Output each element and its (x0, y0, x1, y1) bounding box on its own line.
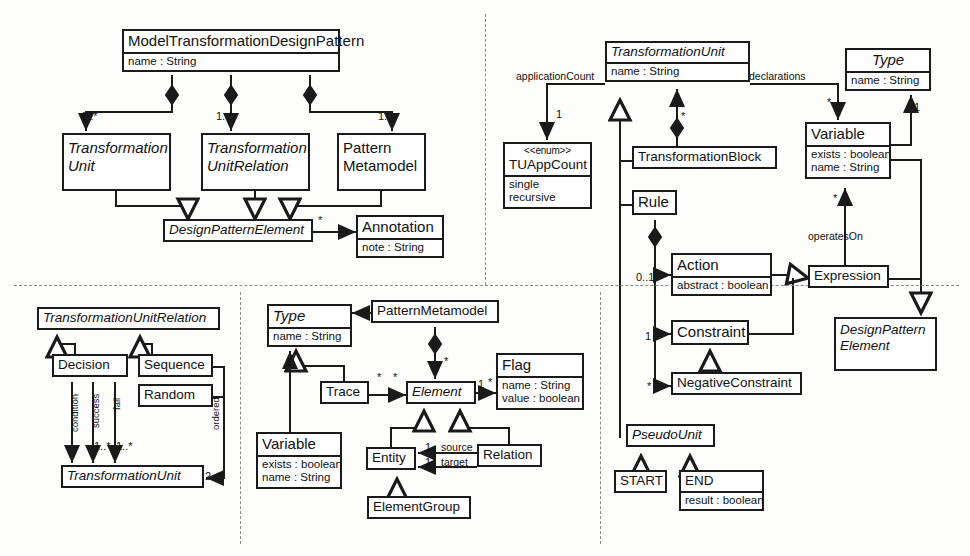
class-name-compartment: Rule (634, 192, 675, 213)
multiplicity-label: 0..1 (636, 271, 654, 283)
multiplicity-label: * (393, 371, 397, 383)
class-name-line-1: DesignPattern (840, 322, 931, 338)
class-name: Element (412, 384, 470, 400)
multiplicity-label: 1..* (216, 110, 233, 122)
class-name: Expression (814, 268, 883, 284)
class-name-line-1: Transformation (207, 139, 304, 157)
class-name: Entity (372, 450, 410, 466)
attribute: name : String (851, 74, 925, 88)
class-design-pattern-element-right[interactable]: DesignPattern Element (834, 317, 937, 371)
divider-vertical-top (485, 14, 486, 285)
class-start[interactable]: START (614, 470, 667, 493)
class-rule[interactable]: Rule (632, 190, 677, 215)
class-name-compartment: Sequence (140, 356, 211, 375)
class-name-compartment: <<enum>> TUAppCount (505, 144, 590, 175)
class-decision[interactable]: Decision (52, 354, 128, 377)
class-entity[interactable]: Entity (366, 447, 416, 470)
multiplicity-label: 1..* (378, 110, 395, 122)
class-name-line-2: Element (840, 338, 931, 354)
class-name: ElementGroup (373, 499, 465, 515)
attribute: name : String (128, 55, 334, 69)
class-tuappcount-enum[interactable]: <<enum>> TUAppCount single recursive (503, 142, 592, 209)
multiplicity-label: 1..* (94, 440, 111, 452)
association-role-label: fail (111, 398, 122, 410)
class-attributes-compartment: name : String (269, 327, 350, 346)
class-literals-compartment: single recursive (505, 175, 590, 207)
association-role-label: applicationCount (516, 70, 594, 82)
class-type-bottom-middle[interactable]: Type name : String (267, 304, 352, 347)
class-name-line-2: Unit (68, 157, 165, 175)
class-variable-bottom-middle[interactable]: Variable exists : boolean name : String (256, 432, 342, 489)
class-random[interactable]: Random (138, 384, 213, 407)
class-relation[interactable]: Relation (477, 444, 542, 467)
class-name: Trace (326, 384, 363, 400)
class-name: TransformationUnit (67, 468, 198, 484)
class-pseudo-unit[interactable]: PseudoUnit (626, 424, 715, 447)
class-name: Type (273, 307, 346, 325)
multiplicity-label: 1..* (81, 110, 98, 122)
class-attributes-compartment: name : String (607, 62, 748, 81)
class-transformation-unit-relation-bottom-left[interactable]: TransformationUnitRelation (37, 307, 220, 330)
multiplicity-label: 2..* (205, 470, 222, 482)
class-expression[interactable]: Expression (808, 265, 889, 288)
class-attributes-compartment: result : boolean (681, 491, 762, 510)
class-attributes-compartment: exists : boolean name : String (258, 455, 340, 487)
class-variable-top-right[interactable]: Variable exists : boolean name : String (805, 122, 891, 179)
class-name: Variable (811, 125, 885, 143)
multiplicity-label: 1 (478, 378, 484, 390)
class-transformation-block[interactable]: TransformationBlock (632, 146, 777, 169)
class-name-compartment: PatternMetamodel (373, 302, 497, 321)
class-name-compartment: END (681, 472, 762, 491)
class-transformation-unit-main[interactable]: TransformationUnit name : String (605, 41, 750, 82)
multiplicity-label: * (681, 110, 685, 122)
class-transformation-unit-top-left[interactable]: Transformation Unit (62, 133, 171, 191)
association-role-label: success (90, 394, 101, 428)
class-element[interactable]: Element (406, 381, 476, 404)
class-name-line-1: Pattern (343, 139, 420, 157)
class-design-pattern-element[interactable]: DesignPatternElement (163, 219, 313, 242)
class-type-top-right[interactable]: Type name : String (845, 48, 931, 91)
attribute: name : String (502, 379, 578, 393)
class-name-line-1: Transformation (68, 139, 165, 157)
class-pattern-metamodel-bottom-middle[interactable]: PatternMetamodel (371, 300, 499, 323)
class-attributes-compartment: name : String (124, 52, 338, 71)
association-role-label: declarations (749, 70, 806, 82)
class-name: TUAppCount (509, 157, 586, 173)
class-name: Constraint (677, 323, 743, 341)
class-model-transformation-design-pattern[interactable]: ModelTransformationDesignPattern name : … (122, 29, 340, 72)
multiplicity-label: * (833, 192, 837, 204)
class-element-group[interactable]: ElementGroup (367, 496, 471, 519)
class-attributes-compartment: note : String (358, 238, 442, 257)
class-name: Action (677, 256, 766, 274)
class-action[interactable]: Action abstract : boolean (671, 253, 772, 296)
divider-vertical-bottom-left (240, 292, 241, 544)
class-pattern-metamodel-top-left[interactable]: Pattern Metamodel (337, 133, 426, 191)
class-sequence[interactable]: Sequence (138, 354, 213, 377)
class-name: Relation (483, 447, 536, 463)
attribute: abstract : boolean (677, 279, 766, 293)
class-name-compartment: Random (140, 386, 211, 405)
class-name-compartment: TransformationUnit (607, 43, 748, 62)
class-negative-constraint[interactable]: NegativeConstraint (671, 372, 802, 395)
class-name: TransformationUnit (611, 44, 744, 60)
attribute: note : String (362, 241, 438, 255)
class-name-compartment: Type (847, 50, 929, 71)
class-name-compartment: Decision (54, 356, 126, 375)
multiplicity-label: * (318, 214, 322, 226)
class-name: PseudoUnit (632, 427, 709, 443)
class-trace[interactable]: Trace (320, 381, 369, 404)
class-name-compartment: TransformationBlock (634, 148, 775, 167)
class-name-compartment: Variable (258, 434, 340, 455)
class-transformation-unit-bottom-left[interactable]: TransformationUnit (61, 465, 204, 488)
class-name-compartment: Transformation UnitRelation (203, 135, 308, 176)
class-annotation[interactable]: Annotation note : String (356, 215, 444, 258)
class-constraint[interactable]: Constraint (671, 320, 749, 345)
class-name-compartment: TransformationUnit (63, 467, 202, 486)
class-end[interactable]: END result : boolean (679, 470, 764, 511)
class-name-compartment: Action (673, 255, 770, 276)
class-name-compartment: DesignPatternElement (165, 221, 311, 240)
multiplicity-label: 1 (425, 441, 431, 453)
class-flag[interactable]: Flag name : String value : boolean (496, 353, 584, 410)
class-transformation-unit-relation-top-left[interactable]: Transformation UnitRelation (201, 133, 310, 191)
attribute: name : String (273, 330, 346, 344)
